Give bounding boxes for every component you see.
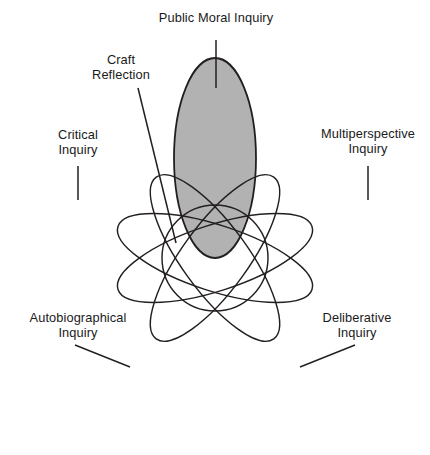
petal-public-moral-inquiry-shape [174,58,256,258]
label-deliberative-inquiry: Deliberative Inquiry [306,310,408,341]
label-autobiographical-inquiry: Autobiographical Inquiry [12,310,144,341]
label-multiperspective-inquiry-line2: Inquiry [308,141,428,156]
label-public-moral-inquiry-line1: Public Moral Inquiry [155,10,277,25]
label-deliberative-inquiry-line2: Inquiry [306,325,408,340]
label-deliberative-inquiry-line1: Deliberative [306,310,408,325]
label-craft-reflection-line2: Reflection [76,67,166,82]
label-critical-inquiry-line1: Critical [33,127,123,142]
label-autobiographical-inquiry-line2: Inquiry [12,325,144,340]
label-critical-inquiry: Critical Inquiry [33,127,123,158]
label-multiperspective-inquiry: Multiperspective Inquiry [308,126,428,157]
label-craft-reflection: Craft Reflection [76,52,166,83]
petal-diagram [0,0,430,455]
label-autobiographical-inquiry-line1: Autobiographical [12,310,144,325]
label-craft-reflection-line1: Craft [76,52,166,67]
label-critical-inquiry-line2: Inquiry [33,142,123,157]
petal-public-moral-inquiry[interactable] [174,58,256,258]
label-public-moral-inquiry: Public Moral Inquiry [155,10,277,25]
label-multiperspective-inquiry-line1: Multiperspective [308,126,428,141]
